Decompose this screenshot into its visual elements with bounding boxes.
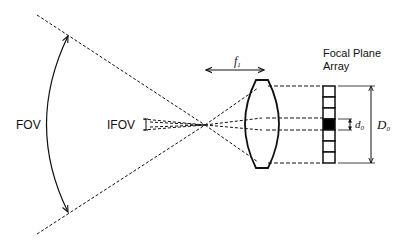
focal-plane-array bbox=[323, 86, 335, 163]
focal-plane-array-label: Focal Plane Array bbox=[323, 47, 381, 73]
fov-label: FOV bbox=[16, 119, 41, 131]
ifov-rays bbox=[143, 119, 205, 130]
lens-icon bbox=[245, 80, 279, 168]
d0-dimension bbox=[338, 119, 352, 130]
ifov-label: IFOV bbox=[107, 119, 135, 131]
detector-pixel-highlighted bbox=[323, 119, 335, 130]
ifov-bracket bbox=[144, 119, 148, 130]
optical-diagram bbox=[0, 0, 401, 246]
focal-length-label: f1 bbox=[234, 55, 241, 69]
detector-pitch-label: d0 bbox=[355, 119, 364, 132]
array-size-label: D0 bbox=[377, 118, 390, 133]
lens-rays bbox=[205, 88, 262, 162]
fov-arc-arrow bbox=[47, 36, 69, 212]
